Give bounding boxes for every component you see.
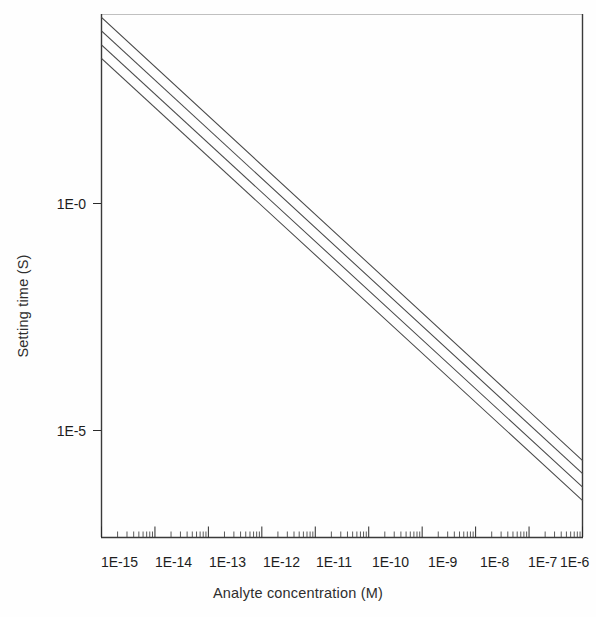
- data-line-3: [102, 45, 583, 487]
- data-line-4: [102, 59, 583, 501]
- x-tick-label-8: 1E-7: [528, 554, 557, 570]
- plot-frame: [101, 14, 583, 538]
- x-tick-label-9: 1E-6: [560, 554, 589, 570]
- y-axis-ticks: [93, 204, 101, 431]
- x-tick-label-0: 1E-15: [101, 554, 138, 570]
- data-line-2: [102, 31, 583, 474]
- x-tick-label-6: 1E-9: [428, 554, 457, 570]
- x-tick-label-2: 1E-13: [209, 554, 246, 570]
- x-tick-label-5: 1E-10: [372, 554, 409, 570]
- x-tick-label-7: 1E-8: [480, 554, 509, 570]
- x-tick-label-4: 1E-11: [316, 554, 352, 570]
- y-tick-label-1: 1E-5: [57, 423, 86, 439]
- y-axis-title: Setting time (S): [15, 254, 31, 357]
- log-log-line-chart: 1E-0 1E-5 1E-15 1E-14 1E-13 1E-12 1E-11 …: [0, 0, 596, 617]
- data-series-group: [102, 18, 583, 501]
- x-tick-label-3: 1E-12: [263, 554, 300, 570]
- chart-page: 1E-0 1E-5 1E-15 1E-14 1E-13 1E-12 1E-11 …: [0, 0, 596, 617]
- data-line-1: [102, 18, 583, 461]
- x-axis-ticks: [102, 527, 583, 538]
- y-tick-label-0: 1E-0: [57, 196, 86, 212]
- x-tick-label-1: 1E-14: [155, 554, 192, 570]
- x-axis-title: Analyte concentration (M): [213, 585, 383, 601]
